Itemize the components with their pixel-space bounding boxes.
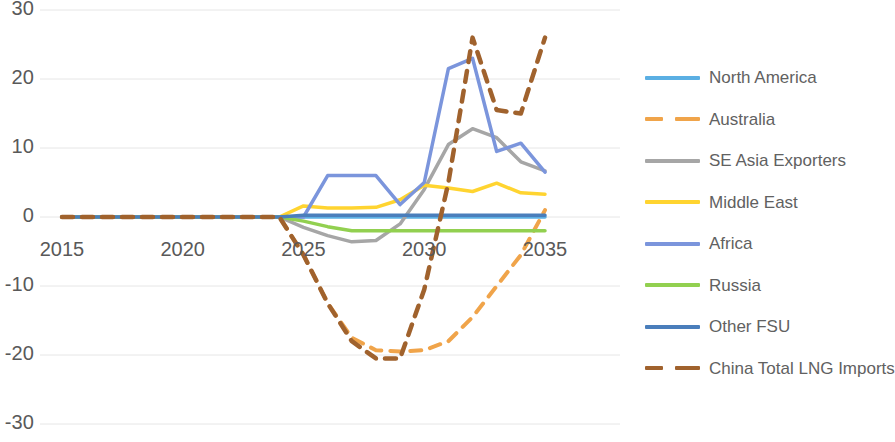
series-line <box>62 183 545 217</box>
legend-swatch-icon <box>645 361 700 375</box>
legend-item-label: Australia <box>709 111 775 128</box>
legend-item[interactable]: China Total LNG Imports <box>645 348 887 390</box>
x-axis-tick-label: 2030 <box>384 238 464 261</box>
legend-swatch-icon <box>645 112 700 126</box>
legend-item[interactable]: North America <box>645 57 887 99</box>
legend-item[interactable]: Other FSU <box>645 306 887 348</box>
legend-item-label: SE Asia Exporters <box>709 152 846 169</box>
y-axis-tick-label: 20 <box>0 66 34 89</box>
legend-swatch-icon <box>645 154 700 168</box>
x-axis-tick-label: 2025 <box>264 238 344 261</box>
legend-item-label: Africa <box>709 235 752 252</box>
legend-item-label: Other FSU <box>709 318 790 335</box>
legend-item[interactable]: Africa <box>645 223 887 265</box>
y-axis-tick-label: 10 <box>0 135 34 158</box>
legend-item[interactable]: Middle East <box>645 182 887 224</box>
legend-item-label: Russia <box>709 277 761 294</box>
y-axis-tick-label: -20 <box>0 342 34 365</box>
legend-item[interactable]: SE Asia Exporters <box>645 140 887 182</box>
series-lines <box>62 38 545 359</box>
series-line <box>62 129 545 242</box>
legend-swatch-icon <box>645 320 700 334</box>
y-axis-tick-label: 0 <box>0 204 34 227</box>
chart-legend: North AmericaAustraliaSE Asia ExportersM… <box>645 57 887 389</box>
y-axis-tick-label: 30 <box>0 0 34 20</box>
legend-swatch-icon <box>645 278 700 292</box>
x-axis-tick-label: 2020 <box>143 238 223 261</box>
legend-item-label: Middle East <box>709 194 798 211</box>
x-axis-tick-label: 2015 <box>22 238 102 261</box>
y-axis-tick-label: -10 <box>0 273 34 296</box>
legend-item-label: North America <box>709 69 817 86</box>
legend-item[interactable]: Russia <box>645 265 887 307</box>
legend-swatch-icon <box>645 71 700 85</box>
y-axis-tick-label: -30 <box>0 411 34 434</box>
legend-swatch-icon <box>645 237 700 251</box>
series-line <box>62 38 545 359</box>
legend-swatch-icon <box>645 195 700 209</box>
legend-item[interactable]: Australia <box>645 99 887 141</box>
legend-item-label: China Total LNG Imports <box>709 360 895 377</box>
x-axis-tick-label: 2035 <box>505 238 585 261</box>
